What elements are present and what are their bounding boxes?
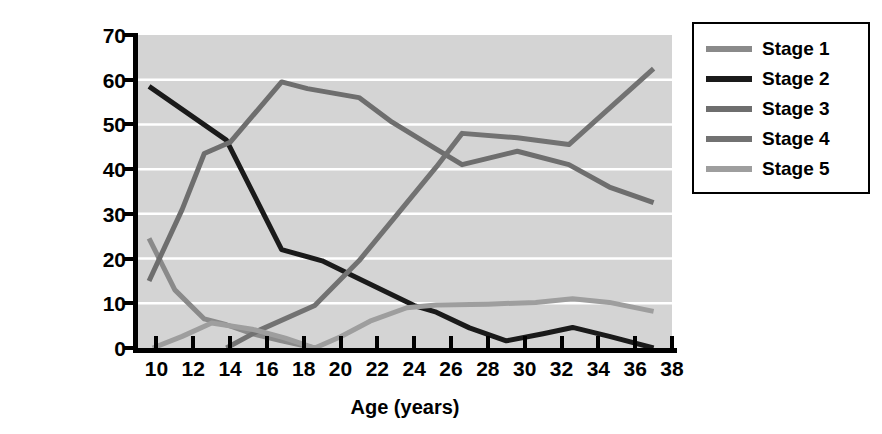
x-tick-mark [596, 336, 600, 350]
x-tick-label: 20 [329, 358, 352, 379]
x-tick-mark [523, 336, 527, 350]
x-tick-mark [191, 336, 195, 350]
x-tick-label: 36 [623, 358, 646, 379]
x-tick-label: 34 [587, 358, 610, 379]
x-tick-label: 38 [660, 358, 683, 379]
y-tick-mark [124, 78, 138, 82]
x-tick-label: 24 [403, 358, 426, 379]
x-tick-mark [412, 336, 416, 350]
chart-legend: Stage 1Stage 2Stage 3Stage 4Stage 5 [692, 22, 870, 194]
x-tick-label: 22 [366, 358, 389, 379]
y-axis-title: Percentage at each stage of moral reason… [0, 0, 64, 380]
legend-line-swatch-icon [706, 106, 752, 112]
x-tick-label: 28 [476, 358, 499, 379]
legend-item-label: Stage 2 [762, 68, 830, 90]
y-tick-mark [124, 167, 138, 171]
x-tick-mark [228, 336, 232, 350]
x-tick-label: 12 [182, 358, 205, 379]
y-axis-tick-labels: 010203040506070 [62, 0, 132, 434]
legend-line-swatch-icon [706, 46, 752, 52]
x-tick-mark [375, 336, 379, 350]
x-tick-mark [154, 336, 158, 350]
plot-area [138, 35, 672, 348]
x-tick-mark [265, 336, 269, 350]
chart-figure: Percentage at each stage of moral reason… [0, 0, 882, 434]
series-line-stage-3 [149, 82, 654, 281]
y-tick-mark [124, 212, 138, 216]
y-tick-mark [124, 346, 138, 350]
x-tick-mark [670, 336, 674, 350]
y-tick-label: 20 [103, 248, 126, 269]
legend-item[interactable]: Stage 3 [694, 94, 868, 124]
y-tick-label: 60 [103, 69, 126, 90]
legend-line-swatch-icon [706, 136, 752, 142]
y-tick-label: 10 [103, 293, 126, 314]
legend-item-label: Stage 3 [762, 98, 830, 120]
y-tick-mark [124, 257, 138, 261]
x-tick-mark [486, 336, 490, 350]
legend-item-label: Stage 4 [762, 128, 830, 150]
plot-lines [138, 35, 672, 348]
y-tick-label: 40 [103, 159, 126, 180]
legend-item[interactable]: Stage 4 [694, 124, 868, 154]
x-tick-mark [560, 336, 564, 350]
legend-item-label: Stage 5 [762, 158, 830, 180]
x-tick-label: 26 [439, 358, 462, 379]
y-tick-mark [124, 33, 138, 37]
y-tick-label: 70 [103, 25, 126, 46]
x-tick-mark [449, 336, 453, 350]
y-tick-mark [124, 301, 138, 305]
x-tick-label: 10 [145, 358, 168, 379]
series-line-stage-1 [149, 238, 315, 348]
x-tick-label: 30 [513, 358, 536, 379]
legend-item[interactable]: Stage 2 [694, 64, 868, 94]
legend-item[interactable]: Stage 5 [694, 154, 868, 184]
y-tick-mark [124, 122, 138, 126]
x-tick-mark [302, 336, 306, 350]
y-tick-label: 30 [103, 203, 126, 224]
x-tick-label: 14 [218, 358, 241, 379]
x-tick-mark [633, 336, 637, 350]
x-tick-label: 18 [292, 358, 315, 379]
x-axis-title: Age (years) [138, 396, 672, 419]
x-tick-label: 32 [550, 358, 573, 379]
y-tick-label: 50 [103, 114, 126, 135]
legend-line-swatch-icon [706, 76, 752, 82]
legend-item[interactable]: Stage 1 [694, 34, 868, 64]
x-tick-mark [339, 336, 343, 350]
legend-item-label: Stage 1 [762, 38, 830, 60]
x-tick-label: 16 [255, 358, 278, 379]
legend-line-swatch-icon [706, 166, 752, 172]
